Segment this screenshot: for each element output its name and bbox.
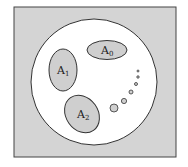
set-a0: A0 bbox=[87, 41, 127, 60]
dot-2 bbox=[121, 98, 126, 103]
dot-5 bbox=[137, 76, 139, 78]
dot-6 bbox=[137, 70, 139, 72]
dot-3 bbox=[129, 90, 133, 94]
dot-4 bbox=[135, 83, 138, 86]
partition-diagram: A0 A1 A2 bbox=[0, 0, 188, 167]
set-a1: A1 bbox=[49, 49, 77, 91]
dot-1 bbox=[110, 104, 118, 112]
